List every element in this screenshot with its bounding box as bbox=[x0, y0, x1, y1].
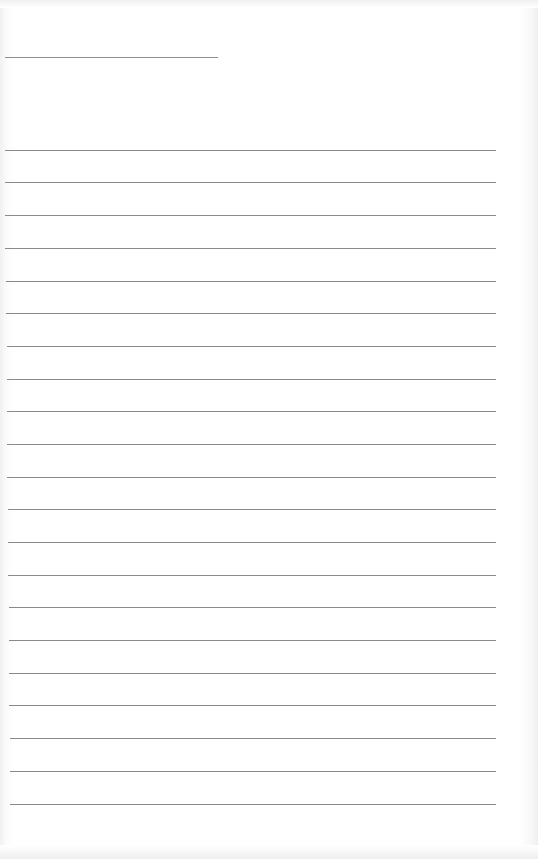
ruled-line bbox=[9, 673, 496, 674]
ruled-line bbox=[9, 607, 496, 608]
ruled-line bbox=[10, 804, 496, 805]
ruled-line bbox=[9, 640, 496, 641]
ruled-paper-sheet bbox=[0, 0, 538, 859]
top-edge-shadow bbox=[0, 0, 538, 8]
ruled-line bbox=[9, 705, 496, 706]
ruled-line bbox=[10, 738, 496, 739]
ruled-line bbox=[6, 281, 496, 282]
ruled-line bbox=[5, 248, 496, 249]
ruled-line bbox=[8, 509, 496, 510]
ruled-line bbox=[8, 542, 496, 543]
ruled-line bbox=[10, 771, 496, 772]
ruled-line bbox=[5, 182, 496, 183]
ruled-line bbox=[7, 444, 496, 445]
ruled-line bbox=[5, 215, 496, 216]
ruled-line bbox=[7, 477, 496, 478]
ruled-line bbox=[6, 313, 496, 314]
ruled-line bbox=[7, 379, 496, 380]
bottom-edge-shadow bbox=[0, 845, 538, 859]
ruled-line bbox=[7, 346, 496, 347]
ruled-line bbox=[8, 575, 496, 576]
ruled-line bbox=[5, 150, 496, 151]
ruled-line bbox=[7, 411, 496, 412]
header-name-line bbox=[5, 57, 218, 58]
